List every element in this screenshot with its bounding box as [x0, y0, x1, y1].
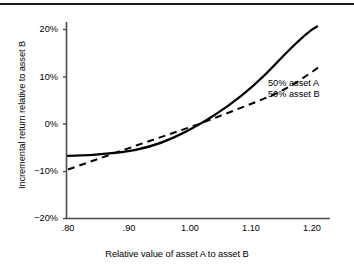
y-tick-label-10: 10%: [18, 72, 58, 82]
y-tick-label-20: 20%: [18, 24, 58, 34]
chart-figure: Incremental return relative to asset B 2…: [0, 0, 354, 272]
y-tick-label-0: 0%: [18, 119, 58, 129]
y-axis-title: Incremental return relative to asset B: [17, 15, 31, 215]
series-annotation: 50% asset A 50% asset B: [268, 78, 320, 101]
series-annotation-line-1: 50% asset A: [268, 78, 320, 89]
x-tick-label-080: .80: [46, 223, 90, 233]
y-tick-label-neg10: −10%: [18, 166, 58, 176]
x-tick-label-120: 1.20: [290, 223, 334, 233]
x-tick-label-090: .90: [107, 223, 151, 233]
x-tick-label-100: 1.00: [168, 223, 212, 233]
y-tick-label-neg20: −20%: [18, 213, 58, 223]
series-annotation-line-2: 50% asset B: [268, 89, 320, 100]
x-tick-label-110: 1.10: [229, 223, 273, 233]
x-axis-title: Relative value of asset A to asset B: [0, 249, 354, 259]
